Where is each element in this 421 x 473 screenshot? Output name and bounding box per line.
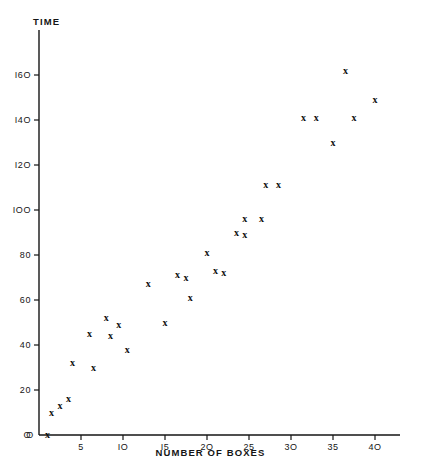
y-tick-label: 20 xyxy=(0,385,31,395)
axis-group xyxy=(39,30,400,435)
data-point: x xyxy=(184,273,189,283)
data-point: x xyxy=(146,279,151,289)
x-tick-label: 5 xyxy=(78,442,84,452)
scatter-plot: TIME NUMBER OF BOXES O20406080IOOI2OI4OI… xyxy=(0,0,421,473)
data-point: x xyxy=(242,230,247,240)
data-point: x xyxy=(87,329,92,339)
x-tick-label: O xyxy=(26,430,34,440)
data-point: x xyxy=(234,228,239,238)
y-tick-label: I4O xyxy=(0,115,31,125)
x-tick-label: 3O xyxy=(284,442,297,452)
y-tick-label: 60 xyxy=(0,295,31,305)
data-point: x xyxy=(66,394,71,404)
data-point: x xyxy=(70,358,75,368)
data-point: x xyxy=(58,401,63,411)
data-point: x xyxy=(221,268,226,278)
axis-lines xyxy=(0,0,421,473)
data-point: x xyxy=(259,214,264,224)
data-point: x xyxy=(314,113,319,123)
data-point: x xyxy=(276,180,281,190)
data-point: x xyxy=(242,214,247,224)
x-tick-label: 4O xyxy=(368,442,381,452)
data-point: x xyxy=(331,138,336,148)
data-point: x xyxy=(45,430,50,440)
data-point: x xyxy=(104,313,109,323)
data-point: x xyxy=(163,318,168,328)
y-tick-label: 40 xyxy=(0,340,31,350)
y-tick-label: IOO xyxy=(0,205,31,215)
x-tick-label: 35 xyxy=(327,442,338,452)
y-tick-label: I6O xyxy=(0,70,31,80)
x-tick-label: 25 xyxy=(243,442,254,452)
data-point: x xyxy=(91,363,96,373)
data-point: x xyxy=(301,113,306,123)
data-point: x xyxy=(188,293,193,303)
data-point: x xyxy=(125,345,130,355)
x-tick-label: IO xyxy=(118,442,129,452)
data-point: x xyxy=(116,320,121,330)
data-point: x xyxy=(343,66,348,76)
x-tick-label: I5 xyxy=(161,442,170,452)
data-point: x xyxy=(352,113,357,123)
data-point: x xyxy=(373,95,378,105)
data-point: x xyxy=(263,180,268,190)
x-tick-label: 2O xyxy=(200,442,213,452)
y-tick-label: I2O xyxy=(0,160,31,170)
data-point: x xyxy=(175,270,180,280)
data-point: x xyxy=(108,331,113,341)
data-point: x xyxy=(213,266,218,276)
data-point: x xyxy=(49,408,54,418)
y-tick-label: 80 xyxy=(0,250,31,260)
data-point: x xyxy=(205,248,210,258)
